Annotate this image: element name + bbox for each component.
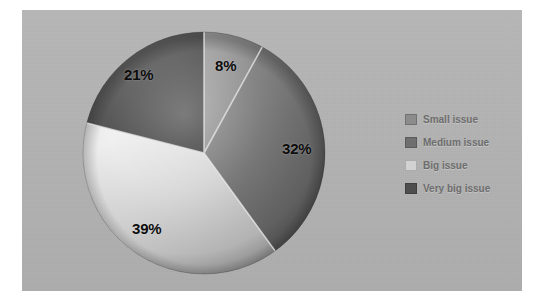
pie-label-very-big-issue: 21% [124, 66, 153, 83]
legend-swatch-icon [405, 183, 417, 194]
legend-label: Medium issue [423, 137, 489, 148]
legend-label: Small issue [423, 114, 478, 125]
chart-legend: Small issue Medium issue Big issue Very … [405, 108, 520, 200]
legend-swatch-icon [405, 160, 417, 171]
legend-label: Very big issue [423, 183, 490, 194]
chart-plot-area: 8% 32% 39% 21% Small issue Medium issue … [22, 10, 522, 291]
pie-label-big-issue: 39% [132, 220, 161, 237]
legend-swatch-icon [405, 137, 417, 148]
pie-label-medium-issue: 32% [282, 140, 311, 157]
legend-label: Big issue [423, 160, 467, 171]
pie-chart-figure: 8% 32% 39% 21% Small issue Medium issue … [0, 0, 546, 307]
legend-item-big-issue[interactable]: Big issue [405, 154, 520, 177]
legend-item-small-issue[interactable]: Small issue [405, 108, 520, 131]
legend-item-very-big-issue[interactable]: Very big issue [405, 177, 520, 200]
pie-graphic: 8% 32% 39% 21% [81, 30, 327, 276]
pie-label-small-issue: 8% [215, 57, 236, 74]
legend-swatch-icon [405, 114, 417, 125]
legend-item-medium-issue[interactable]: Medium issue [405, 131, 520, 154]
